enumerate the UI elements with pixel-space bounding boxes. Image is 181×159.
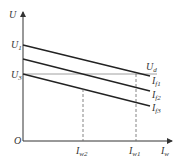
y-axis-label: U <box>9 9 17 20</box>
label-if2: If2 <box>151 89 161 102</box>
tick-iw1: Iw1 <box>128 145 141 158</box>
label-if1: If1 <box>151 75 161 88</box>
line-if2 <box>23 59 150 91</box>
x-axis-label: Iw <box>160 145 169 158</box>
line-if3 <box>23 74 150 106</box>
tick-u1: U1 <box>11 39 22 52</box>
label-if3: If3 <box>151 102 161 115</box>
tick-iw2: Iw2 <box>75 145 88 158</box>
origin-label: O <box>14 135 21 146</box>
tick-u3: U3 <box>11 69 22 82</box>
label-ud: Ud <box>146 61 157 74</box>
diagram-canvas: U U1 U3 O Iw2 Iw1 Iw Ud If1 If2 If3 <box>0 0 181 159</box>
line-if1 <box>23 45 150 76</box>
